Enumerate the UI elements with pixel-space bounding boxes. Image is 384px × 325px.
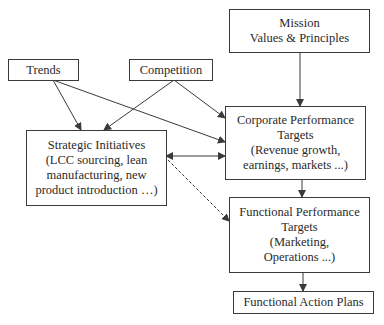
strategic-line-2: (LCC sourcing, lean [46,153,148,168]
corporate-line-4: earnings, markets ...) [243,158,348,173]
trends-label: Trends [26,63,60,78]
strategic-line-3: manufacturing, new [47,168,147,183]
arrow-competition-to-strategic [104,80,174,130]
functional-line-2: Targets [281,220,317,235]
arrow-trends-to-strategic [53,80,81,130]
functional-line-3: (Marketing, [270,235,329,250]
mission-line-2: Values & Principles [250,31,349,46]
competition-box: Competition [129,59,213,81]
arrow-competition-to-corporate [174,80,225,118]
corporate-performance-box: Corporate Performance Targets (Revenue g… [225,106,366,180]
functional-line-4: Operations ...) [264,250,336,265]
functional-line-1: Functional Performance [239,205,359,220]
competition-label: Competition [140,63,203,78]
corporate-line-3: (Revenue growth, [251,143,341,158]
mission-line-1: Mission [279,16,319,31]
functional-performance-box: Functional Performance Targets (Marketin… [229,197,370,273]
strategic-initiatives-box: Strategic Initiatives (LCC sourcing, lea… [26,130,167,206]
arrow-strategic-to-functional-dashed [168,160,229,221]
action-plans-label: Functional Action Plans [243,295,363,310]
trends-box: Trends [8,59,79,81]
corporate-line-1: Corporate Performance [237,113,354,128]
functional-action-plans-box: Functional Action Plans [233,291,374,314]
strategic-line-4: product introduction …) [35,183,157,198]
corporate-line-2: Targets [277,128,313,143]
strategic-line-1: Strategic Initiatives [48,138,146,153]
mission-values-box: Mission Values & Principles [229,9,370,53]
